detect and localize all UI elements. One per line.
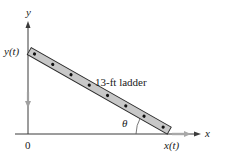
theta-label: θ (122, 118, 127, 129)
right-motion-arrow-icon (172, 131, 191, 137)
angle-arc (136, 118, 141, 135)
ladder-length-label: 13-ft ladder (95, 77, 147, 88)
ladder-diagram: y y(t) 13-ft ladder θ x 0 x(t) (0, 0, 225, 158)
ladder (27, 48, 171, 134)
down-motion-arrow-icon (25, 92, 31, 108)
y-axis-arrowhead-icon (26, 21, 31, 28)
x-of-t-label: x(t) (164, 140, 179, 151)
y-of-t-label: y(t) (4, 46, 19, 57)
y-axis-label: y (26, 7, 31, 18)
y-axis (26, 21, 31, 134)
origin-label: 0 (25, 140, 31, 151)
x-axis-arrowhead-icon (194, 132, 201, 137)
x-axis-label: x (205, 128, 210, 139)
